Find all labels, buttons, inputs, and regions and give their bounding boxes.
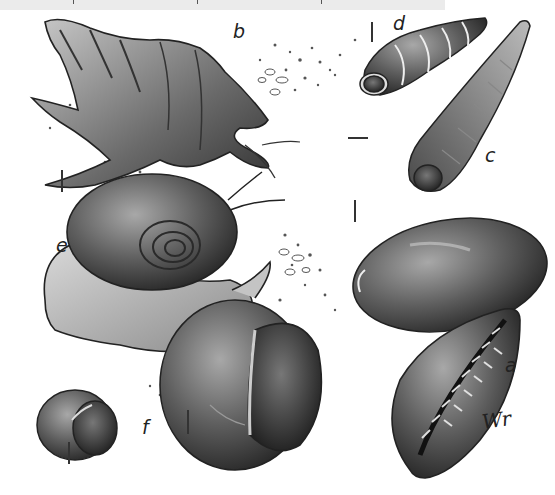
shell-illustration-plate: b d c e a f Wr [0,0,555,495]
small-snail-f [37,390,117,460]
large-snail-aperture [160,300,321,470]
cowrie-shell-a [392,309,520,478]
scale-bar-f [68,442,70,464]
illustration-svg [0,0,555,495]
label-a: a [505,356,517,375]
artist-signature: Wr [480,406,512,434]
cowrie-dorsal [344,204,555,346]
scale-bar-d [371,22,373,42]
label-e: e [56,236,68,255]
scale-bar-b [61,170,63,192]
scale-bar-cowrie [354,200,356,222]
conch-b [32,20,300,188]
scale-bar-snail [187,410,189,434]
label-c: c [485,146,495,165]
label-f: f [142,418,149,437]
label-d: d [393,14,405,33]
scale-bar-c [348,137,368,139]
label-b: b [233,22,245,41]
